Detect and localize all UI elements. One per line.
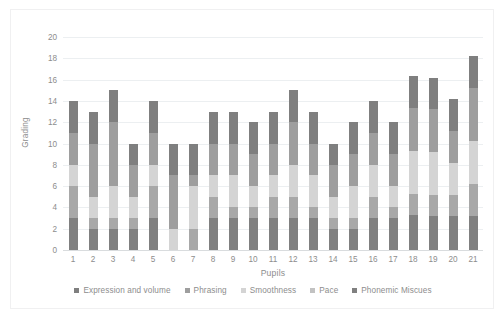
bar-segment[interactable] [69, 218, 78, 250]
bar-segment[interactable] [249, 154, 258, 186]
stacked-bar[interactable] [109, 90, 118, 250]
bar-segment[interactable] [469, 88, 478, 141]
bar-segment[interactable] [109, 122, 118, 186]
bar-segment[interactable] [169, 175, 178, 228]
bar-segment[interactable] [189, 175, 198, 186]
bar-segment[interactable] [389, 207, 398, 218]
bar-segment[interactable] [329, 144, 338, 165]
bar-segment[interactable] [229, 144, 238, 176]
stacked-bar[interactable] [269, 112, 278, 250]
bar-segment[interactable] [369, 197, 378, 218]
bar-segment[interactable] [149, 133, 158, 165]
bar-segment[interactable] [169, 229, 178, 250]
bar-segment[interactable] [429, 195, 438, 216]
bar-segment[interactable] [249, 122, 258, 154]
bar-segment[interactable] [449, 99, 458, 131]
bar-segment[interactable] [89, 218, 98, 229]
bar-segment[interactable] [349, 229, 358, 250]
bar-segment[interactable] [429, 78, 438, 110]
bar-column[interactable] [203, 37, 223, 250]
bar-segment[interactable] [109, 186, 118, 218]
bar-column[interactable] [243, 37, 263, 250]
bar-column[interactable] [403, 37, 423, 250]
bar-column[interactable] [83, 37, 103, 250]
bar-segment[interactable] [329, 165, 338, 197]
bar-segment[interactable] [229, 175, 238, 207]
bar-segment[interactable] [69, 186, 78, 218]
bar-column[interactable] [163, 37, 183, 250]
bar-segment[interactable] [269, 218, 278, 250]
bar-segment[interactable] [109, 90, 118, 122]
bar-segment[interactable] [89, 197, 98, 218]
bar-segment[interactable] [309, 175, 318, 207]
bar-segment[interactable] [229, 207, 238, 218]
bar-segment[interactable] [309, 218, 318, 250]
bar-segment[interactable] [269, 197, 278, 218]
bar-segment[interactable] [129, 144, 138, 165]
bar-segment[interactable] [209, 144, 218, 176]
bar-column[interactable] [463, 37, 483, 250]
bar-segment[interactable] [409, 151, 418, 194]
bar-segment[interactable] [249, 218, 258, 250]
bar-segment[interactable] [349, 122, 358, 154]
bar-segment[interactable] [269, 112, 278, 144]
legend-item[interactable]: Phrasing [185, 286, 227, 295]
bar-segment[interactable] [69, 133, 78, 165]
bar-segment[interactable] [329, 229, 338, 250]
bar-segment[interactable] [289, 90, 298, 122]
bar-column[interactable] [303, 37, 323, 250]
bar-column[interactable] [343, 37, 363, 250]
stacked-bar[interactable] [69, 101, 78, 250]
legend-item[interactable]: Expression and volume [74, 286, 170, 295]
stacked-bar[interactable] [289, 90, 298, 250]
bar-segment[interactable] [289, 165, 298, 197]
bar-segment[interactable] [469, 184, 478, 216]
bar-segment[interactable] [389, 154, 398, 186]
bar-segment[interactable] [229, 218, 238, 250]
bar-segment[interactable] [449, 163, 458, 195]
bar-segment[interactable] [129, 229, 138, 250]
bar-column[interactable] [383, 37, 403, 250]
bar-column[interactable] [223, 37, 243, 250]
bar-segment[interactable] [409, 76, 418, 108]
bar-segment[interactable] [469, 216, 478, 250]
bar-column[interactable] [443, 37, 463, 250]
bar-column[interactable] [323, 37, 343, 250]
bar-segment[interactable] [429, 216, 438, 250]
bar-segment[interactable] [209, 218, 218, 250]
bar-segment[interactable] [449, 216, 458, 250]
stacked-bar[interactable] [89, 112, 98, 250]
bar-segment[interactable] [289, 122, 298, 165]
bar-segment[interactable] [149, 165, 158, 186]
bar-segment[interactable] [289, 197, 298, 218]
stacked-bar[interactable] [449, 99, 458, 250]
bar-column[interactable] [123, 37, 143, 250]
bar-column[interactable] [263, 37, 283, 250]
stacked-bar[interactable] [209, 112, 218, 250]
bar-column[interactable] [103, 37, 123, 250]
bar-segment[interactable] [369, 165, 378, 197]
stacked-bar[interactable] [229, 112, 238, 250]
bar-column[interactable] [63, 37, 83, 250]
bar-segment[interactable] [249, 207, 258, 218]
bar-column[interactable] [183, 37, 203, 250]
legend-item[interactable]: Smoothness [241, 286, 297, 295]
bar-segment[interactable] [289, 218, 298, 250]
bar-segment[interactable] [69, 165, 78, 186]
bar-segment[interactable] [449, 131, 458, 163]
bar-column[interactable] [423, 37, 443, 250]
bar-segment[interactable] [369, 218, 378, 250]
stacked-bar[interactable] [329, 144, 338, 250]
bar-segment[interactable] [369, 101, 378, 133]
bar-segment[interactable] [129, 197, 138, 218]
bar-segment[interactable] [389, 218, 398, 250]
bar-segment[interactable] [349, 154, 358, 186]
bar-segment[interactable] [329, 218, 338, 229]
bar-segment[interactable] [309, 207, 318, 218]
stacked-bar[interactable] [349, 122, 358, 250]
bar-segment[interactable] [389, 186, 398, 207]
bar-segment[interactable] [429, 109, 438, 152]
bar-segment[interactable] [429, 152, 438, 195]
bar-segment[interactable] [149, 218, 158, 250]
bar-segment[interactable] [89, 229, 98, 250]
